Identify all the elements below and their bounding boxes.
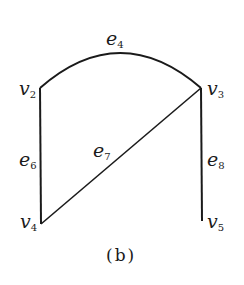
edge-label-e8: e8 [207,150,225,171]
edge-e4 [40,53,201,88]
vertex-label-v5: v5 [207,212,224,233]
vertex-label-v3: v3 [207,79,224,100]
edge-e6 [40,88,41,224]
edge-label-e4: e4 [106,29,124,50]
edge-e7 [41,88,201,224]
vertex-label-v4: v4 [20,212,37,233]
edge-e8 [201,88,202,221]
vertex-label-v2: v2 [19,79,36,100]
edge-label-e6: e6 [19,150,37,171]
edge-label-e7: e7 [93,141,111,162]
figure-caption: (b) [106,247,136,264]
